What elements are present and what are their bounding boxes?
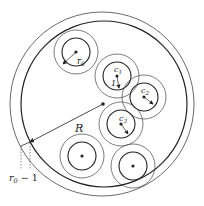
disk-r0: r0 (54, 30, 98, 74)
label-r0-minus-1: r0 − 1 (9, 172, 38, 185)
svg-text:c3: c3 (119, 114, 127, 124)
svg-text:c2: c2 (141, 86, 149, 96)
diagram: R r0 − 1 r0 c1 1 c2 c3 (0, 0, 204, 206)
disk-c3: c3 (99, 102, 143, 146)
svg-text:c1: c1 (114, 65, 122, 75)
packing-diagram: R r0 − 1 r0 c1 1 c2 c3 (0, 0, 204, 206)
label-R: R (74, 122, 83, 135)
svg-text:1: 1 (111, 79, 116, 88)
svg-text:r0: r0 (77, 56, 85, 67)
disk-bottom-left (60, 134, 104, 178)
gap-tick (21, 142, 30, 146)
disk-c1: c1 1 (95, 54, 139, 98)
